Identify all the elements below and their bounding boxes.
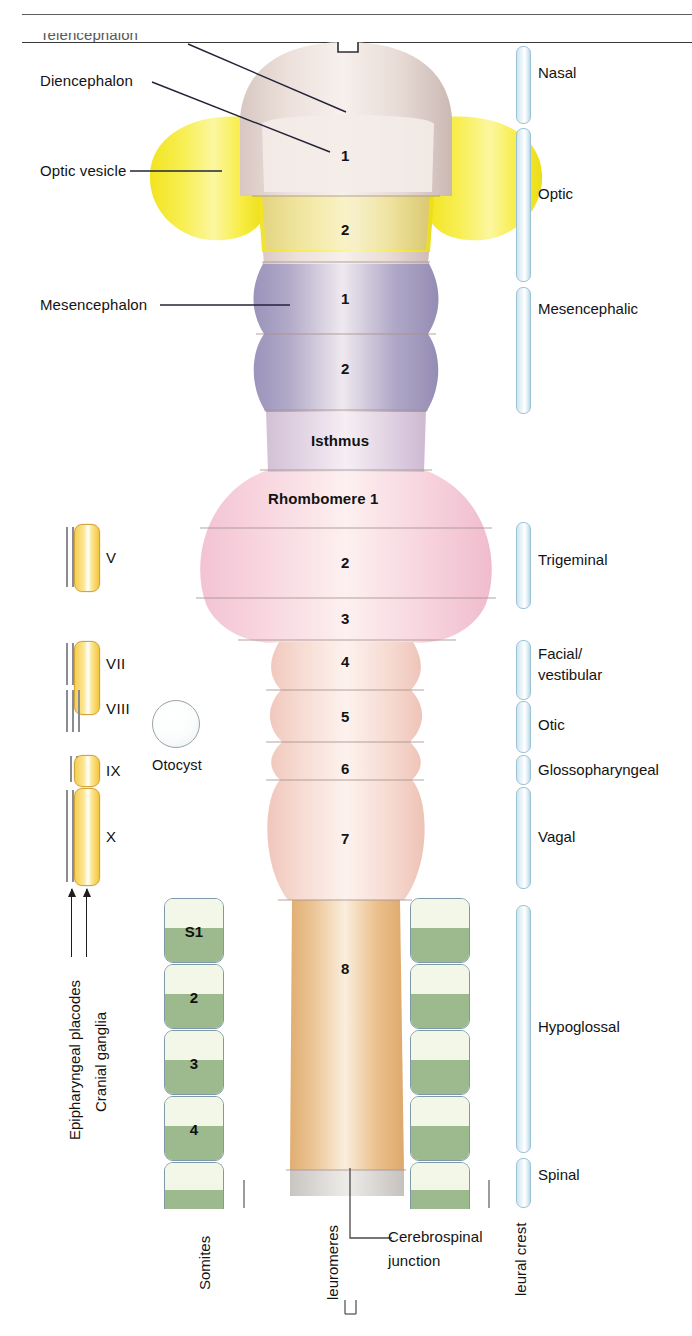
somite-label: S1	[165, 922, 223, 939]
crest-bar-spinal[interactable]	[516, 1158, 531, 1208]
somite-top	[411, 965, 469, 994]
crest-bar-glossopharyngeal[interactable]	[516, 755, 531, 785]
somite-5-partial[interactable]	[164, 1162, 224, 1209]
somite-bottom	[411, 1060, 469, 1094]
axis-neuromeres: leuromeres	[324, 1225, 341, 1300]
somite-bottom	[411, 1126, 469, 1160]
crest-label-trigeminal: Trigeminal	[538, 551, 607, 569]
somite-top	[411, 1163, 469, 1184]
crest-label-mesencephalic: Mesencephalic	[538, 300, 638, 318]
axis-somites: Somites	[196, 1236, 213, 1290]
somite-label: 3	[165, 1054, 223, 1071]
crest-bar-facial-vestibular[interactable]	[516, 640, 531, 700]
axis-neural-crest: leural crest	[512, 1223, 529, 1296]
somite-bottom	[411, 1190, 469, 1209]
ganglion-vii-label: VII	[106, 655, 126, 672]
somite-right-3[interactable]	[410, 1030, 470, 1095]
somite-top	[411, 1031, 469, 1060]
somite-top	[411, 1097, 469, 1126]
somite-2[interactable]: 2	[164, 964, 224, 1029]
crest-label-hypoglossal: Hypoglossal	[538, 1018, 620, 1036]
ganglion-x[interactable]	[74, 788, 100, 886]
somite-3[interactable]: 3	[164, 1030, 224, 1095]
somite-4[interactable]: 4	[164, 1096, 224, 1161]
crest-label-glossopharyngeal: Glossopharyngeal	[538, 761, 659, 779]
ganglion-v[interactable]	[74, 524, 100, 592]
segment-mesomere-2: 2	[341, 360, 349, 378]
segment-isthmus: Isthmus	[311, 432, 369, 450]
segment-rhombomere-7: 7	[341, 830, 349, 848]
arrow-epipharyngeal-placodes	[71, 889, 72, 957]
placode-viii	[64, 690, 80, 732]
somite-right-5-partial[interactable]	[410, 1162, 470, 1209]
segment-mesomere-1: 1	[341, 290, 349, 308]
label-optic-vesicle: Optic vesicle	[40, 162, 126, 180]
crest-label-vestibular: vestibular	[538, 666, 602, 684]
somite-right-1[interactable]	[410, 898, 470, 963]
crest-label-vagal: Vagal	[538, 828, 575, 846]
figure-canvas: Telencephalon	[0, 0, 692, 1336]
somite-s1[interactable]: S1	[164, 898, 224, 963]
segment-rhombomere-4: 4	[341, 653, 349, 671]
label-mesencephalon: Mesencephalon	[40, 296, 147, 314]
crest-bar-nasal[interactable]	[516, 46, 531, 124]
label-cerebrospinal-junction-line2: junction	[388, 1252, 441, 1270]
segment-rhombomere-5: 5	[341, 708, 349, 726]
crest-bar-hypoglossal[interactable]	[516, 905, 531, 1153]
label-diencephalon: Diencephalon	[40, 72, 133, 90]
crest-bar-vagal[interactable]	[516, 787, 531, 889]
segment-rhombomere-1: Rhombomere 1	[268, 490, 378, 508]
somite-right-2[interactable]	[410, 964, 470, 1029]
crest-label-spinal: Spinal	[538, 1166, 580, 1184]
crest-label-optic: Optic	[538, 185, 573, 203]
ganglion-ix[interactable]	[74, 755, 100, 787]
segment-prosomere-2: 2	[341, 221, 349, 239]
ganglion-viii-label: VIII	[106, 700, 130, 717]
label-otocyst: Otocyst	[152, 757, 202, 775]
ganglion-ix-label: IX	[106, 762, 121, 779]
somite-right-4[interactable]	[410, 1096, 470, 1161]
segment-rhombomere-6: 6	[341, 760, 349, 778]
crest-bar-otic[interactable]	[516, 701, 531, 753]
segment-rhombomere-8: 8	[341, 960, 349, 978]
somite-bottom	[411, 928, 469, 962]
somite-bottom	[165, 1190, 223, 1209]
segment-rhombomere-2: 2	[341, 554, 349, 572]
arrow-cranial-ganglia	[86, 889, 87, 957]
crest-label-facial: Facial/	[538, 645, 582, 663]
somite-label: 2	[165, 988, 223, 1005]
segment-rhombomere-3: 3	[341, 610, 349, 628]
crest-label-otic: Otic	[538, 716, 565, 734]
axis-cranial-ganglia: Cranial ganglia	[92, 1012, 109, 1112]
somite-label: 4	[165, 1120, 223, 1137]
axis-epipharyngeal-placodes: Epipharyngeal placodes	[66, 980, 83, 1140]
crest-bar-trigeminal[interactable]	[516, 522, 531, 609]
somite-top	[165, 1163, 223, 1184]
label-cerebrospinal-junction-line1: Cerebrospinal	[388, 1228, 483, 1246]
crest-bar-mesencephalic[interactable]	[516, 287, 531, 414]
somite-top	[411, 899, 469, 928]
ganglion-x-label: X	[106, 828, 116, 845]
somite-bottom	[411, 994, 469, 1028]
segment-prosomere-1: 1	[341, 147, 349, 165]
ganglion-v-label: V	[106, 549, 116, 566]
crest-label-nasal: Nasal	[538, 64, 576, 82]
crest-bar-optic[interactable]	[516, 128, 531, 282]
otocyst-icon	[152, 700, 200, 748]
